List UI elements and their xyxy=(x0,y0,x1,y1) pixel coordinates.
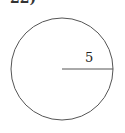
radius-value-label: 5 xyxy=(85,50,93,65)
circle-diagram: 5 xyxy=(0,0,125,133)
